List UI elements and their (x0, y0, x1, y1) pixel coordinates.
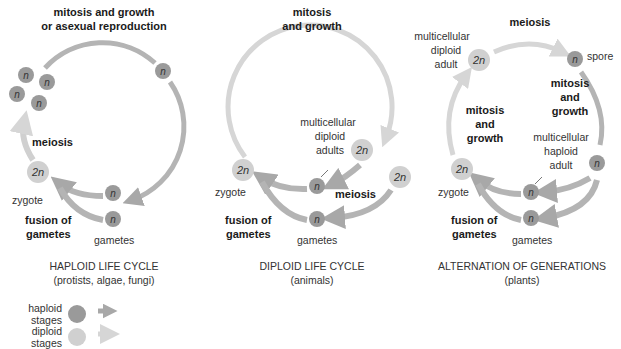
diploid-cell: 2n (232, 159, 254, 181)
haploid-gametes-label: gametes (94, 234, 134, 247)
diploid-fusion-label-1: fusion of (225, 214, 271, 227)
diploid-cell: 2n (351, 139, 373, 161)
diploid-subtitle: (animals) (290, 273, 333, 288)
alt-left-mitosis-2: and (475, 118, 495, 131)
haploid-subtitle: (protists, algae, fungi) (54, 273, 155, 288)
haploid-cell: n (589, 155, 605, 171)
diploid-cell: 2n (389, 166, 411, 188)
legend-diploid-label: diploid stages (0, 325, 62, 349)
haploid-cell: n (9, 86, 25, 102)
legend-haploid-dot-icon (68, 305, 86, 323)
alt-haploid-adult-label-2: haploid (544, 145, 578, 158)
alt-right-mitosis-2: and (560, 91, 580, 104)
alt-haploid-adult-label-1: multicellular (533, 131, 588, 144)
diploid-zygote-label: zygote (215, 186, 246, 199)
diploid-adults-label-3: adults (316, 144, 344, 157)
alt-meiosis-label: meiosis (510, 16, 551, 29)
alt-right-mitosis-3: growth (552, 105, 589, 118)
diploid-top-label-1: mitosis (293, 6, 332, 19)
meiosis-arc (494, 44, 562, 52)
haploid-cell: n (523, 184, 539, 200)
life-cycle-diagram (0, 0, 621, 349)
diploid-adults-label-2: diploid (315, 130, 345, 143)
alt-spore-label: spore (587, 50, 613, 63)
diploid-cell: 2n (468, 49, 490, 71)
haploid-cell: n (105, 211, 121, 227)
alt-left-mitosis-3: growth (467, 132, 504, 145)
haploid-fusion-label-1: fusion of (25, 214, 71, 227)
legend-diploid-dot-icon (68, 328, 86, 346)
gamete-arrow-1 (545, 178, 590, 192)
diploid-cell: 2n (451, 158, 473, 180)
diploid-cell: 2n (27, 161, 49, 183)
alt-title: ALTERNATION OF GENERATIONS (438, 259, 606, 274)
meiosis-arrow-1 (333, 165, 360, 184)
haploid-cell: n (39, 74, 55, 90)
haploid-cell: n (567, 51, 583, 67)
haploid-cell: n (18, 67, 34, 83)
diploid-fusion-label-2: gametes (226, 228, 271, 241)
haploid-cell: n (309, 211, 325, 227)
mitosis-arc (45, 43, 155, 68)
haploid-cell: n (155, 63, 171, 79)
alt-right-mitosis-1: mitosis (551, 77, 590, 90)
diploid-adults-label-1: multicellular (300, 116, 355, 129)
alt-subtitle: (plants) (504, 273, 539, 288)
haploid-cell: n (309, 178, 325, 194)
haploid-cell: n (523, 210, 539, 226)
diploid-gametes-label: gametes (297, 234, 337, 247)
alt-gametes-label: gametes (512, 234, 552, 247)
haploid-top-label-2: or asexual reproduction (41, 20, 166, 33)
haploid-fusion-label-2: gametes (26, 228, 71, 241)
alt-haploid-adult-label-3: adult (550, 159, 573, 172)
haploid-cell: n (31, 95, 47, 111)
diploid-meiosis-label: meiosis (335, 188, 376, 201)
haploid-zygote-label: zygote (12, 194, 43, 207)
alt-diploid-adult-label-1: multicellular (414, 30, 469, 43)
haploid-top-label-1: mitosis and growth (54, 6, 155, 19)
mitosis-arc (228, 25, 392, 157)
alt-diploid-adult-label-3: adult (435, 58, 458, 71)
diploid-top-label-2: and growth (282, 20, 341, 33)
haploid-meiosis-label: meiosis (32, 136, 73, 149)
alt-fusion-label-2: gametes (452, 228, 497, 241)
haploid-title: HAPLOID LIFE CYCLE (49, 259, 158, 274)
diploid-title: DIPLOID LIFE CYCLE (259, 259, 364, 274)
alt-left-mitosis-1: mitosis (466, 104, 505, 117)
alt-diploid-adult-label-2: diploid (431, 44, 461, 57)
legend-diploid: diploid stages (0, 325, 91, 349)
legend-haploid-label: haploid stages (0, 302, 62, 326)
mitosis-arc-left (449, 75, 466, 155)
alt-zygote-label: zygote (438, 186, 469, 199)
legend-haploid: haploid stages (0, 302, 91, 326)
haploid-cell: n (105, 185, 121, 201)
fusion-arrow-1 (262, 178, 307, 189)
return-arc (132, 82, 184, 200)
alt-fusion-label-1: fusion of (451, 214, 497, 227)
